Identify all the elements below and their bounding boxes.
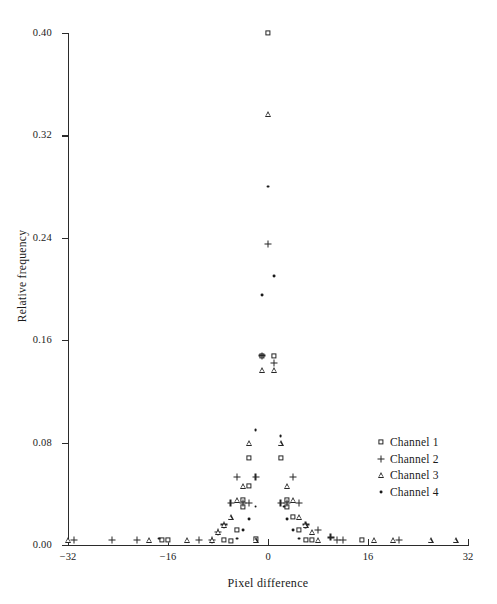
data-point-triangle	[315, 537, 321, 543]
data-point-triangle	[390, 537, 396, 543]
data-point-triangle	[65, 537, 71, 543]
y-tick-label: 0.32	[18, 130, 52, 140]
data-point-plus	[252, 474, 259, 481]
data-point-dot	[273, 275, 276, 278]
data-point-triangle	[184, 537, 190, 543]
data-point-triangle	[284, 483, 290, 489]
data-point-dot	[279, 435, 282, 438]
data-point-square	[234, 527, 239, 532]
legend-label: Channel 1	[390, 436, 439, 448]
data-point-triangle	[215, 529, 221, 535]
legend-item: Channel 2	[374, 451, 439, 468]
data-point-square	[228, 539, 233, 544]
y-tick	[62, 135, 69, 136]
data-point-square	[265, 30, 270, 35]
data-point-square	[359, 537, 364, 542]
y-tick-label: 0.00	[18, 540, 52, 550]
data-point-plus	[133, 536, 140, 543]
x-tick-label: −32	[48, 551, 88, 562]
data-point-plus	[108, 536, 115, 543]
y-tick	[62, 340, 69, 341]
data-point-square	[247, 455, 252, 460]
data-point-triangle	[453, 537, 459, 543]
data-point-plus	[340, 536, 347, 543]
data-point-triangle	[259, 367, 265, 373]
y-tick	[62, 443, 69, 444]
x-tick	[468, 539, 469, 546]
data-point-plus	[71, 536, 78, 543]
x-tick	[268, 539, 269, 546]
plus-marker	[378, 455, 385, 462]
square-marker	[378, 440, 383, 445]
data-point-plus	[315, 526, 322, 533]
data-point-dot	[235, 537, 238, 540]
data-point-plus	[246, 499, 253, 506]
data-point-plus	[296, 499, 303, 506]
data-point-dot	[248, 518, 251, 521]
data-point-triangle	[246, 440, 252, 446]
y-tick	[62, 238, 69, 239]
data-point-plus	[258, 352, 265, 359]
data-point-dot	[254, 428, 257, 431]
data-point-dot	[285, 518, 288, 521]
data-point-triangle	[253, 537, 259, 543]
data-point-triangle	[146, 537, 152, 543]
data-point-triangle	[265, 111, 271, 117]
data-point-dot	[282, 505, 285, 508]
y-tick	[62, 33, 69, 34]
legend-plus-icon	[374, 451, 390, 467]
data-point-plus	[265, 241, 272, 248]
data-point-plus	[196, 536, 203, 543]
data-point-triangle	[278, 440, 284, 446]
data-point-triangle	[228, 514, 234, 520]
y-tick-label: 0.08	[18, 438, 52, 448]
x-tick-label: 32	[448, 551, 488, 562]
legend-label: Channel 2	[390, 453, 439, 465]
scatter-chart: 0.000.080.160.240.320.40 −32−1601632 Rel…	[0, 0, 497, 604]
data-point-triangle	[209, 537, 215, 543]
y-tick-label: 0.40	[18, 28, 52, 38]
data-point-triangle	[271, 367, 277, 373]
data-point-triangle	[309, 529, 315, 535]
data-point-dot	[267, 185, 270, 188]
x-tick	[368, 539, 369, 546]
legend-triangle-icon	[374, 467, 390, 483]
data-point-triangle	[221, 522, 227, 528]
data-point-triangle	[234, 497, 240, 503]
data-point-square	[247, 484, 252, 489]
data-point-plus	[233, 474, 240, 481]
chart-legend: Channel 1Channel 2Channel 3Channel 4	[374, 434, 439, 500]
data-point-dot	[298, 537, 301, 540]
legend-item: Channel 3	[374, 467, 439, 484]
data-point-square	[165, 537, 170, 542]
legend-item: Channel 1	[374, 434, 439, 451]
legend-label: Channel 3	[390, 469, 439, 481]
legend-dot-icon	[374, 484, 390, 500]
data-point-dot	[157, 537, 160, 540]
x-axis-title: Pixel difference	[168, 576, 368, 591]
data-point-square	[272, 353, 277, 358]
data-point-triangle	[428, 537, 434, 543]
data-point-triangle	[371, 537, 377, 543]
data-point-triangle	[290, 497, 296, 503]
data-point-square	[290, 514, 295, 519]
data-point-square	[303, 537, 308, 542]
data-point-dot	[292, 528, 295, 531]
legend-label: Channel 4	[390, 486, 439, 498]
data-point-dot	[254, 505, 257, 508]
data-point-square	[222, 537, 227, 542]
data-point-plus	[290, 474, 297, 481]
data-point-dot	[242, 528, 245, 531]
data-point-square	[309, 537, 314, 542]
data-point-plus	[396, 536, 403, 543]
triangle-marker	[378, 472, 384, 478]
data-point-triangle	[303, 522, 309, 528]
x-tick-label: 16	[348, 551, 388, 562]
data-point-dot	[260, 294, 263, 297]
dot-marker	[380, 490, 383, 493]
legend-item: Channel 4	[374, 484, 439, 501]
data-point-triangle	[296, 514, 302, 520]
legend-square-icon	[374, 434, 390, 450]
x-tick-label: −16	[148, 551, 188, 562]
data-point-triangle	[240, 483, 246, 489]
